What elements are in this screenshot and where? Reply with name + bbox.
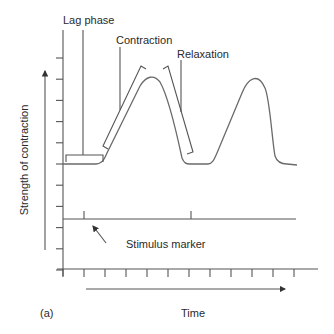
x-axis-ticks — [63, 269, 294, 277]
y-axis-ticks — [56, 58, 63, 270]
lag-phase-bracket — [66, 155, 103, 162]
panel-label: (a) — [40, 307, 53, 319]
x-axis-label: Time — [181, 307, 205, 319]
twitch-curve — [63, 77, 297, 165]
stimulus-marker-label: Stimulus marker — [126, 238, 206, 250]
stimulus-pointer-arrow — [93, 226, 106, 243]
contraction-label: Contraction — [116, 34, 172, 46]
y-axis-label: Strength of contraction — [18, 105, 30, 216]
muscle-twitch-diagram: Lag phase Contraction Relaxation Stimulu… — [0, 0, 334, 334]
relaxation-label: Relaxation — [177, 48, 229, 60]
lag-phase-label: Lag phase — [63, 14, 114, 26]
contraction-bracket — [103, 66, 146, 149]
